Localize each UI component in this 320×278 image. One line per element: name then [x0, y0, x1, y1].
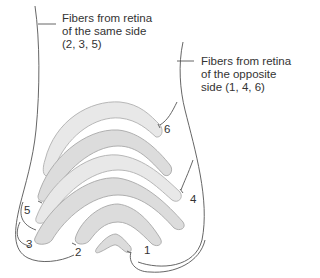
- tick-2: [72, 243, 76, 245]
- opposite-side-label-line2: of the opposite: [201, 68, 291, 81]
- layer-number-4: 4: [190, 193, 196, 205]
- same-side-label-line3: (2, 3, 5): [62, 38, 152, 51]
- opposite-side-branch-6: [160, 102, 177, 125]
- same-side-label: Fibers from retina of the same side (2, …: [62, 12, 152, 51]
- opposite-side-label-line3: side (1, 4, 6): [201, 81, 291, 94]
- opposite-side-branch-1: [130, 240, 205, 272]
- layer-number-3: 3: [26, 238, 32, 250]
- opposite-side-branch-4: [181, 160, 193, 190]
- same-side-label-line1: Fibers from retina: [62, 12, 152, 25]
- layer-number-6: 6: [164, 123, 170, 135]
- layer-number-5: 5: [24, 204, 30, 216]
- opposite-side-label-line1: Fibers from retina: [201, 55, 291, 68]
- opposite-side-label: Fibers from retina of the opposite side …: [201, 55, 291, 94]
- layer-1: [96, 234, 132, 253]
- layer-number-1: 1: [144, 244, 150, 256]
- same-side-label-line2: of the same side: [62, 25, 152, 38]
- layer-number-2: 2: [75, 246, 81, 258]
